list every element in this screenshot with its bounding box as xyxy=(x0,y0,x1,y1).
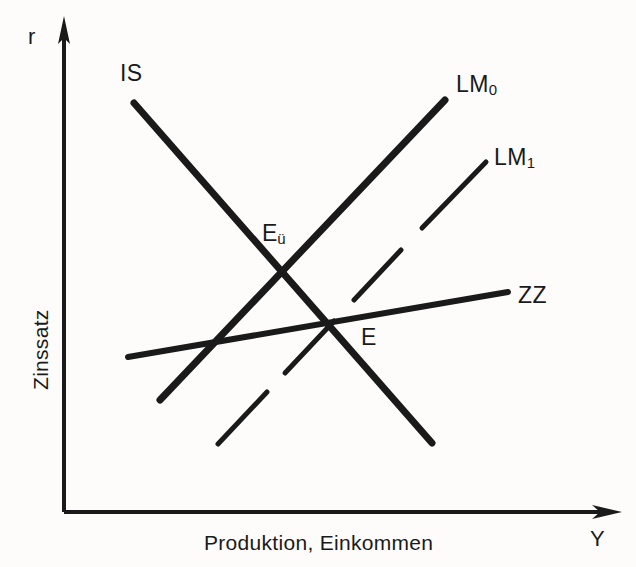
curve-label-lm1: LM1 xyxy=(494,146,535,169)
curve-label-lm0: LM0 xyxy=(456,73,497,96)
curve-label-is: IS xyxy=(120,62,143,85)
lm1-dash-3 xyxy=(354,250,401,300)
y-axis-title: Zinssatz xyxy=(30,309,51,390)
lm1-label-text: LM xyxy=(494,144,527,170)
e-label-text: E xyxy=(361,324,376,350)
x-axis-variable-y: Y xyxy=(590,528,605,550)
zz-curve xyxy=(128,292,508,357)
lm1-dash-1 xyxy=(218,392,267,444)
y-axis-variable-r: r xyxy=(28,26,35,48)
point-label-e-ue: Eü xyxy=(262,222,286,245)
e-ue-label-subscript: ü xyxy=(277,230,285,247)
is-lm-zz-figure: IS LM0 LM1 ZZ Eü E r Y Zinssatz Produkti… xyxy=(0,0,636,567)
lm1-label-subscript: 1 xyxy=(527,154,535,171)
zz-label-text: ZZ xyxy=(518,282,547,308)
x-axis-title: Produktion, Einkommen xyxy=(204,532,433,553)
lm0-label-subscript: 0 xyxy=(489,81,497,98)
e-ue-label-text: E xyxy=(262,220,277,246)
axes-group xyxy=(58,16,622,519)
curve-label-zz: ZZ xyxy=(518,284,547,307)
point-label-e: E xyxy=(361,326,376,349)
lm0-label-text: LM xyxy=(456,71,489,97)
lm1-dash-4 xyxy=(422,162,486,228)
is-label-text: IS xyxy=(120,60,143,86)
